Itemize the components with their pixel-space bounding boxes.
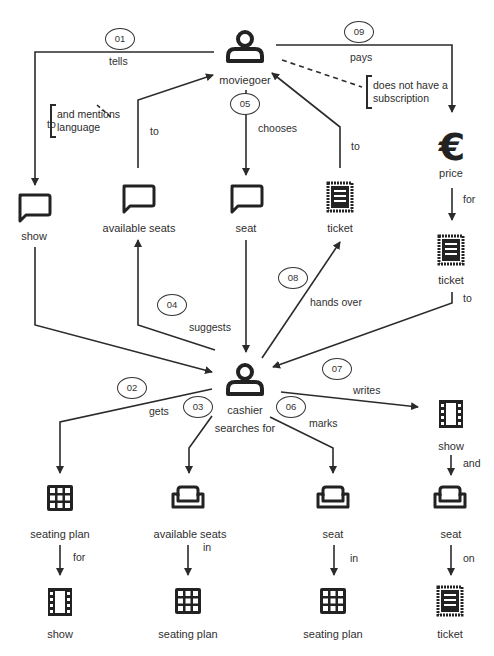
euro-icon: € (438, 125, 465, 169)
edge-label-gets: gets (149, 405, 169, 417)
person-icon (228, 32, 262, 61)
node-available-seats-message: available seats (103, 222, 176, 234)
edge-label-hands-over: hands over (310, 296, 362, 308)
edge-label-price-for: for (463, 193, 475, 205)
edge-label-tells: tells (109, 55, 128, 67)
step-badge-02: 02 (117, 377, 147, 399)
node-show-2: show (438, 440, 464, 452)
sofa-icon (435, 487, 465, 507)
edge-label-chooses: chooses (258, 122, 297, 134)
ticket-icon (438, 587, 462, 615)
node-available-seats-2: available seats (154, 528, 227, 540)
node-ticket-right: ticket (438, 274, 464, 286)
node-show-1: show (47, 628, 73, 640)
edge-label-marks: marks (309, 417, 338, 429)
edge-label-searches-for: searches for (215, 422, 276, 434)
edge-label-writes: writes (353, 384, 380, 396)
grid-icon (175, 588, 201, 614)
step-badge-06: 06 (276, 396, 306, 418)
note-mentions-language: and mentions language (50, 108, 120, 134)
edge-label-suggests: suggests (189, 321, 231, 333)
edge-label-in-2: in (350, 552, 358, 564)
film-icon (48, 588, 72, 616)
edge-label-available-to: to (150, 125, 159, 137)
edge-label-and: and (463, 457, 481, 469)
node-seat-2: seat (323, 528, 344, 540)
film-icon (439, 400, 463, 428)
edge-label-pays: pays (350, 51, 372, 63)
ticket-icon (328, 183, 352, 211)
node-moviegoer: moviegoer (219, 74, 270, 86)
ticket-icon (439, 236, 463, 264)
node-price: price (439, 167, 463, 179)
node-ticket-top: ticket (327, 222, 353, 234)
grid-icon (320, 588, 346, 614)
node-show-message: show (21, 230, 47, 242)
step-badge-09: 09 (344, 21, 374, 43)
sofa-icon (318, 487, 348, 507)
speech-bubble-icon (124, 186, 154, 212)
person-icon (228, 365, 262, 394)
edge-label-for: for (73, 551, 85, 563)
step-badge-08: 08 (278, 267, 308, 289)
node-seating-plan-3: seating plan (303, 628, 362, 640)
speech-bubble-icon (232, 186, 262, 212)
node-seat-message: seat (236, 222, 257, 234)
step-badge-07: 07 (322, 358, 352, 380)
grid-icon (47, 485, 73, 511)
step-badge-05: 05 (230, 93, 260, 115)
sofa-icon (173, 487, 203, 507)
node-seating-plan-1: seating plan (30, 528, 89, 540)
edge-label-ticket-to-cashier: to (463, 292, 472, 304)
step-badge-03: 03 (183, 396, 213, 418)
node-cashier: cashier (227, 404, 262, 416)
step-badge-01: 01 (105, 28, 135, 50)
node-seating-plan-2: seating plan (158, 628, 217, 640)
speech-bubble-icon (20, 195, 50, 221)
step-badge-04: 04 (157, 294, 187, 316)
edge-label-on: on (463, 552, 475, 564)
note-no-subscription: does not have a subscription (366, 79, 448, 105)
node-seat-3: seat (441, 528, 462, 540)
node-ticket-bottom: ticket (437, 628, 463, 640)
edge-label-ticket-to: to (351, 140, 360, 152)
edge-label-in-1: in (203, 541, 211, 553)
